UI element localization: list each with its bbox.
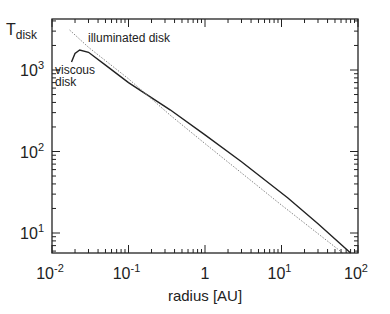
tick-labels: 10-210-11101102101102103 <box>20 59 368 282</box>
annotation-disk: disk <box>55 75 77 89</box>
series-viscous-disk <box>72 50 351 253</box>
y-axis-label: Tdisk <box>6 21 38 42</box>
series-illuminated-disk <box>70 30 343 253</box>
tick-label: 1 <box>201 265 210 282</box>
tick-label: 102 <box>344 262 368 282</box>
tick-label: 102 <box>20 141 44 161</box>
tick-label: 103 <box>20 59 44 79</box>
plot-curves <box>70 30 351 253</box>
tick-label: 101 <box>20 222 44 242</box>
x-axis-label: radius [AU] <box>168 287 242 304</box>
tick-label: 10-2 <box>36 262 64 282</box>
chart: 10-210-11101102101102103 Tdisk radius [A… <box>0 0 390 314</box>
tick-label: 101 <box>268 262 292 282</box>
annotation-illuminated-disk: illuminated disk <box>88 31 171 45</box>
tick-label: 10-1 <box>113 262 141 282</box>
